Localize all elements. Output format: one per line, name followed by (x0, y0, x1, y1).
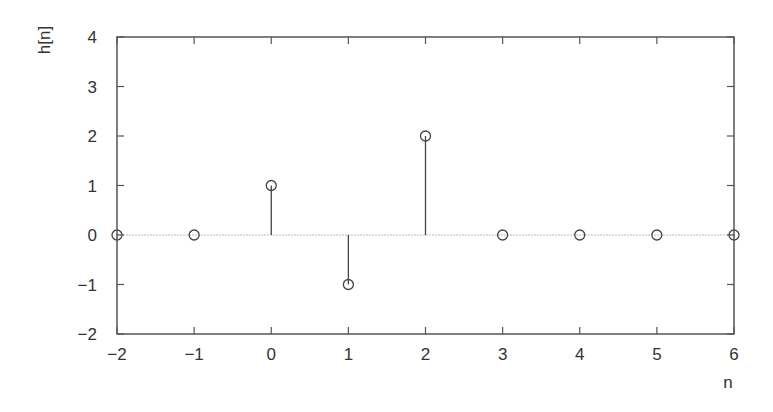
y-tick-labels: −2−101234 (78, 28, 97, 344)
x-tick-label: 0 (267, 345, 276, 364)
stems (271, 136, 425, 285)
x-tick-label: 2 (421, 345, 430, 364)
y-tick-label: 4 (88, 28, 97, 47)
x-tick-label: −1 (184, 345, 203, 364)
y-tick-label: 1 (88, 177, 97, 196)
x-tick-label: 3 (498, 345, 507, 364)
stem-chart: −2−10123456 −2−101234 n h[n] (0, 0, 773, 412)
y-tick-label: 2 (88, 127, 97, 146)
x-tick-label: 4 (575, 345, 584, 364)
y-tick-label: −2 (78, 325, 97, 344)
y-tick-label: −1 (78, 276, 97, 295)
x-tick-label: 6 (729, 345, 738, 364)
x-tick-label: 5 (652, 345, 661, 364)
x-tick-label: 1 (344, 345, 353, 364)
x-axis-label: n (723, 373, 732, 392)
y-axis-label: h[n] (35, 26, 54, 54)
x-tick-label: −2 (107, 345, 126, 364)
x-tick-labels: −2−10123456 (107, 345, 738, 364)
y-tick-label: 0 (88, 226, 97, 245)
y-tick-label: 3 (88, 78, 97, 97)
